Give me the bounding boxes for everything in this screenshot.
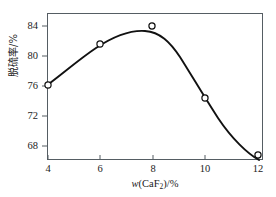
x-tick-label-12: 12	[253, 164, 264, 175]
y-axis-title: 脱硫率/%	[5, 16, 20, 96]
x-axis-title-variable: w	[132, 178, 139, 189]
x-tick-label-8: 8	[150, 164, 155, 175]
y-tick-label-68: 68	[16, 141, 38, 152]
x-axis-title-open: (CaF	[139, 178, 160, 189]
chart-figure: 84 80 76 72 68 4 6 8 10 12 w(CaF2)/% 脱硫率…	[0, 0, 276, 197]
x-axis-title-close: )/%	[163, 178, 178, 189]
plot-area-frame	[47, 13, 263, 160]
x-axis-title: w(CaF2)/%	[47, 178, 263, 191]
y-tick-label-72: 72	[16, 111, 38, 122]
x-tick-label-4: 4	[45, 164, 50, 175]
x-tick-label-10: 10	[200, 164, 211, 175]
x-tick-label-6: 6	[97, 164, 102, 175]
